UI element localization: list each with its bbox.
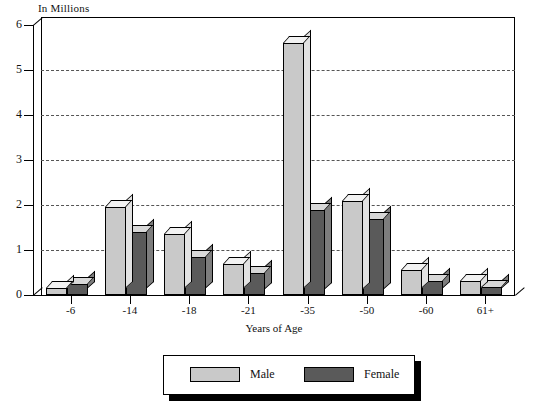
y-axis-line [33,25,34,295]
legend-swatch-female-icon [304,367,354,382]
legend-item-male: Male [190,367,275,382]
bar-face [164,234,185,295]
y-tick [24,25,33,26]
y-tick-label: 0 [8,288,22,300]
y-axis-title: In Millions [38,2,89,14]
legend: Male Female [163,355,415,395]
bar-face [283,43,304,295]
x-tick-label: 61+ [465,305,505,316]
y-tick-label: 4 [8,108,22,120]
y-tick [24,295,33,296]
x-tick-label: -18 [169,305,209,316]
x-tick [426,295,427,304]
x-axis-title: Years of Age [0,322,548,334]
bar-male--18 [164,234,185,295]
legend-label-male: Male [250,367,275,382]
bar-male--14 [105,207,126,295]
bar-male--6 [46,288,67,295]
bar-side [126,194,133,288]
y-tick-label: 1 [8,243,22,255]
x-tick [485,295,486,304]
y-tick-label: 3 [8,153,22,165]
x-tick [130,295,131,304]
legend-item-female: Female [304,367,399,382]
plot-floor [33,295,515,296]
x-tick [248,295,249,304]
bar-face [342,201,363,296]
y-tick [24,205,33,206]
y-tick [24,70,33,71]
x-tick [367,295,368,304]
x-tick [189,295,190,304]
x-tick [71,295,72,304]
y-tick-label: 2 [8,198,22,210]
depth-edge-top [33,25,42,34]
bar-chart: In Millions 0123456 -6-14-18-21-35-50-60… [0,0,548,410]
legend-label-female: Female [364,367,399,382]
legend-swatch-male-icon [190,367,240,382]
gridline [41,115,515,116]
bar-face [401,270,422,295]
bar-side [325,196,332,288]
gridline [41,160,515,161]
y-tick-label: 5 [8,63,22,75]
bar-face [105,207,126,295]
bar-male--21 [223,264,244,295]
x-tick-label: -60 [406,305,446,316]
x-tick-label: -21 [228,305,268,316]
x-tick-label: -14 [110,305,150,316]
bar-male--60 [401,270,422,295]
bar-female-61+ [481,287,502,295]
bar-side [363,187,370,288]
bar-face [460,281,481,295]
bar-face [67,284,88,295]
gridline [41,70,515,71]
x-tick-label: -6 [51,305,91,316]
depth-edge-right [515,295,524,304]
y-tick [24,250,33,251]
x-tick [308,295,309,304]
bar-face [223,264,244,295]
bar-face [481,287,502,295]
x-tick-label: -50 [347,305,387,316]
y-tick-label: 6 [8,18,22,30]
y-tick [24,115,33,116]
bar-male--50 [342,201,363,296]
bar-male--35 [283,43,304,295]
x-tick-label: -35 [288,305,328,316]
bar-side [304,30,311,288]
bar-female--6 [67,284,88,295]
bar-face [46,288,67,295]
depth-edge-bottom [33,295,42,304]
bar-male-61+ [460,281,481,295]
y-tick [24,160,33,161]
